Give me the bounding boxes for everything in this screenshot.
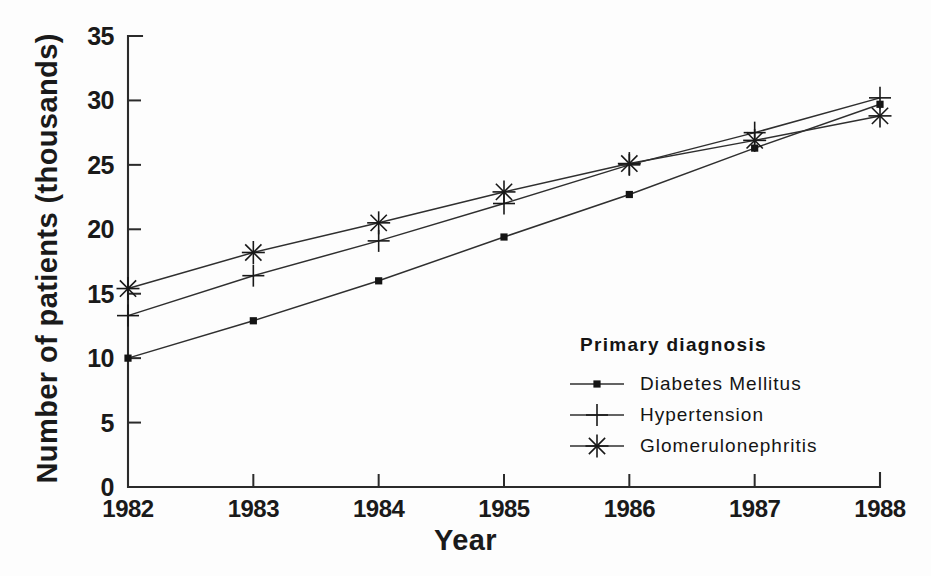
legend-title: Primary diagnosis (580, 334, 817, 356)
legend-marker-asterisk-icon (566, 433, 628, 459)
y-axis-title: Number of patients (thousands) (31, 54, 64, 484)
x-tick-label: 1984 (324, 497, 434, 521)
legend-item-label: Glomerulonephritis (640, 435, 817, 457)
plot-canvas (0, 0, 931, 576)
y-tick-label: 25 (56, 153, 114, 178)
legend-marker-plus-icon (566, 402, 628, 428)
x-tick-label: 1987 (700, 497, 810, 521)
legend-item: Glomerulonephritis (566, 430, 817, 461)
x-tick-label: 1988 (825, 497, 931, 521)
legend: Primary diagnosis Diabetes MellitusHyper… (566, 334, 817, 461)
legend-item-label: Diabetes Mellitus (640, 373, 802, 395)
y-tick-label: 20 (56, 217, 114, 242)
x-tick-label: 1986 (574, 497, 684, 521)
x-tick-label: 1982 (73, 497, 183, 521)
chart-figure: 05101520253035 1982198319841985198619871… (0, 0, 931, 576)
legend-item-label: Hypertension (640, 404, 764, 426)
y-tick-label: 35 (56, 24, 114, 49)
legend-item: Diabetes Mellitus (566, 368, 817, 399)
y-tick-label: 30 (56, 88, 114, 113)
data-series (117, 87, 892, 362)
legend-item: Hypertension (566, 399, 817, 430)
y-tick-label: 5 (56, 411, 114, 436)
y-tick-label: 15 (56, 282, 114, 307)
y-tick-label: 10 (56, 346, 114, 371)
x-tick-label: 1983 (198, 497, 308, 521)
legend-entries: Diabetes MellitusHypertensionGlomerulone… (566, 368, 817, 461)
x-axis-title: Year (0, 524, 931, 557)
legend-marker-dot-icon (566, 371, 628, 397)
x-tick-label: 1985 (449, 497, 559, 521)
